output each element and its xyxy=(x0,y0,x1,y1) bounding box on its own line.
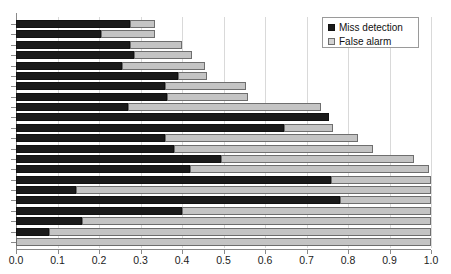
bar-row xyxy=(0,93,451,101)
y-axis-tick xyxy=(11,76,16,77)
x-axis-tick-label: 0.7 xyxy=(299,255,313,266)
y-axis-tick xyxy=(11,34,16,35)
bar-segment-miss-detection xyxy=(16,82,165,90)
y-axis-tick xyxy=(11,55,16,56)
bar-row xyxy=(0,103,451,111)
bar-segment-false-alarm xyxy=(76,186,431,194)
bar-segment-false-alarm xyxy=(16,238,431,246)
bar-segment-miss-detection xyxy=(16,93,167,101)
bar-segment-false-alarm xyxy=(49,228,431,236)
bar-segment-miss-detection xyxy=(16,186,76,194)
y-axis-tick xyxy=(11,211,16,212)
x-axis-tick-label: 0.9 xyxy=(382,255,396,266)
y-axis-tick xyxy=(11,97,16,98)
bar-segment-false-alarm xyxy=(221,155,414,163)
chart-legend: Miss detection False alarm xyxy=(322,17,419,48)
light-square-icon xyxy=(328,38,335,45)
legend-label-false-alarm: False alarm xyxy=(339,37,391,47)
bar-segment-miss-detection xyxy=(16,51,134,59)
bar-segment-false-alarm xyxy=(331,176,431,184)
x-axis-tick-label: 0.0 xyxy=(9,255,23,266)
bar-segment-miss-detection xyxy=(16,145,174,153)
y-axis-tick xyxy=(11,45,16,46)
x-axis-tick-label: 0.6 xyxy=(258,255,272,266)
y-axis-tick xyxy=(11,138,16,139)
y-axis-tick xyxy=(11,232,16,233)
bar-row xyxy=(0,62,451,70)
bar-segment-miss-detection xyxy=(16,30,101,38)
y-axis-tick xyxy=(11,86,16,87)
y-axis-tick xyxy=(11,66,16,67)
legend-item-false-alarm: False alarm xyxy=(328,35,414,48)
bar-row xyxy=(0,228,451,236)
dark-square-icon xyxy=(328,24,335,31)
bar-segment-false-alarm xyxy=(130,41,182,49)
bar-segment-false-alarm xyxy=(134,51,192,59)
bar-row xyxy=(0,113,451,121)
bar-row xyxy=(0,72,451,80)
bar-segment-false-alarm xyxy=(340,196,431,204)
bar-segment-false-alarm xyxy=(284,124,334,132)
bar-segment-false-alarm xyxy=(190,165,429,173)
y-axis-tick xyxy=(11,169,16,170)
y-axis-tick xyxy=(11,242,16,243)
bar-segment-false-alarm xyxy=(165,82,246,90)
bar-segment-miss-detection xyxy=(16,124,284,132)
bar-row xyxy=(0,145,451,153)
y-axis-tick xyxy=(11,149,16,150)
x-axis-tick-label: 0.1 xyxy=(50,255,64,266)
y-axis-tick xyxy=(11,221,16,222)
bar-row xyxy=(0,165,451,173)
bar-segment-false-alarm xyxy=(128,103,321,111)
y-axis-tick xyxy=(11,128,16,129)
y-axis-tick xyxy=(11,159,16,160)
legend-label-miss-detection: Miss detection xyxy=(339,23,403,33)
bar-segment-miss-detection xyxy=(16,165,190,173)
bar-segment-miss-detection xyxy=(16,176,331,184)
y-axis-tick xyxy=(11,107,16,108)
bar-segment-miss-detection xyxy=(16,72,178,80)
bar-segment-false-alarm xyxy=(178,72,207,80)
bar-segment-miss-detection xyxy=(16,196,340,204)
bar-segment-miss-detection xyxy=(16,207,182,215)
bar-segment-miss-detection xyxy=(16,20,130,28)
bar-segment-false-alarm xyxy=(82,217,431,225)
bar-segment-false-alarm xyxy=(165,134,358,142)
bar-segment-false-alarm xyxy=(174,145,373,153)
bar-row xyxy=(0,124,451,132)
bar-segment-false-alarm xyxy=(182,207,431,215)
bar-row xyxy=(0,207,451,215)
y-axis-tick xyxy=(11,200,16,201)
bar-row xyxy=(0,51,451,59)
bar-segment-false-alarm xyxy=(167,93,248,101)
bar-segment-false-alarm xyxy=(122,62,205,70)
bar-segment-miss-detection xyxy=(16,103,128,111)
x-axis-tick-label: 0.8 xyxy=(341,255,355,266)
bar-row xyxy=(0,155,451,163)
bar-segment-miss-detection xyxy=(16,228,49,236)
bar-row xyxy=(0,134,451,142)
x-axis-tick-label: 0.5 xyxy=(216,255,230,266)
bar-segment-miss-detection xyxy=(16,134,165,142)
legend-item-miss-detection: Miss detection xyxy=(328,21,414,34)
bar-segment-miss-detection xyxy=(16,113,329,121)
bar-segment-false-alarm xyxy=(101,30,155,38)
bar-row xyxy=(0,217,451,225)
bar-segment-miss-detection xyxy=(16,217,82,225)
bar-row xyxy=(0,82,451,90)
y-axis-tick xyxy=(11,180,16,181)
bar-row xyxy=(0,186,451,194)
x-axis-tick-label: 0.2 xyxy=(92,255,106,266)
bar-segment-miss-detection xyxy=(16,62,122,70)
y-axis-tick xyxy=(11,117,16,118)
bar-row xyxy=(0,196,451,204)
y-axis-tick xyxy=(11,24,16,25)
bar-segment-false-alarm xyxy=(130,20,155,28)
stacked-bar-chart-figure: Miss detection False alarm 0.00.10.20.30… xyxy=(0,0,451,274)
bar-row xyxy=(0,238,451,246)
x-axis-tick-label: 0.3 xyxy=(133,255,147,266)
y-axis-tick xyxy=(11,190,16,191)
bar-segment-miss-detection xyxy=(16,41,130,49)
bar-row xyxy=(0,176,451,184)
bar-segment-miss-detection xyxy=(16,155,221,163)
